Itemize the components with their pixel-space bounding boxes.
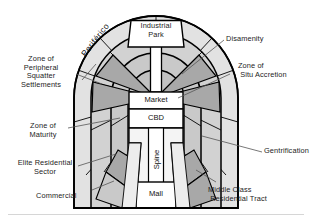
mall-label: Mall [136,190,176,198]
spine-label: Spine [152,142,161,178]
callout-gentrification: Gentrification [264,147,312,156]
callout-disamenity: Disamenity [226,35,296,44]
callout-zone-of-maturity: Zone of Maturity [14,122,72,139]
callout-elite-residential-sector: Elite Residential Sector [8,159,82,176]
callout-zone-of-situ-accretion: Zone of Situ Accretion [238,62,310,79]
callout-middle-class-residential-tract: Middle Class Residential Tract [208,186,304,203]
callout-zone-peripheral-squatter-settlements: Zone of Peripheral Squatter Settlements [8,55,74,89]
figure-baseline [8,214,304,215]
market-label: Market [129,96,183,104]
cbd-label: CBD [129,114,183,122]
callout-commercial: Commercial [36,192,96,201]
industrial-park-label: Industrial Park [128,22,184,39]
diagram-canvas: Market CBD Spine Mall Industrial Park Pe… [0,0,312,221]
